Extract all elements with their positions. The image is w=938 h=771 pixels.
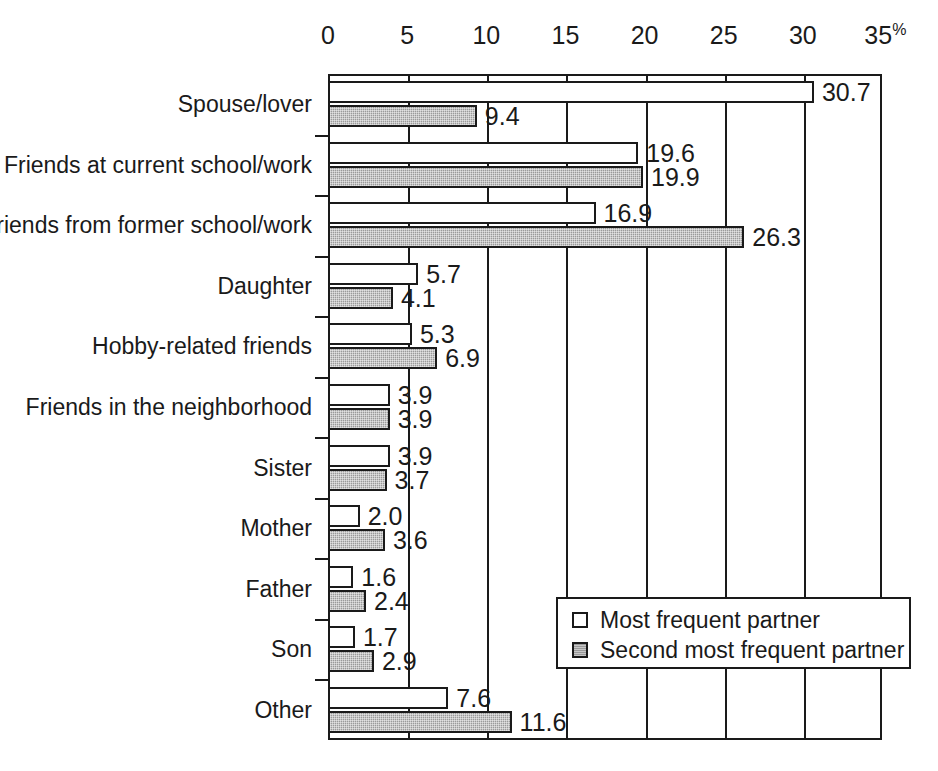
chart-legend: Most frequent partner Second most freque… [556, 597, 911, 669]
bar-value-label-1-0: 9.4 [485, 103, 520, 129]
category-label-mother: Mother [240, 515, 312, 541]
x-tick-label-35: 35% [864, 20, 906, 50]
x-tick-label-0: 0 [321, 20, 335, 50]
bar-0-2 [328, 202, 596, 224]
bar-value-label-1-5: 3.9 [398, 406, 433, 432]
x-tick-label-10: 10 [472, 20, 500, 50]
bar-0-0 [328, 81, 814, 103]
gray-square-swatch [572, 642, 588, 658]
x-tick-label-5: 5 [400, 20, 414, 50]
bar-value-label-1-9: 2.9 [382, 648, 417, 674]
bar-value-label-1-7: 3.6 [393, 527, 428, 553]
bar-value-label-1-2: 26.3 [752, 224, 801, 250]
bar-1-1 [328, 166, 643, 188]
bar-value-label-0-0: 30.7 [822, 79, 871, 105]
bar-1-6 [328, 469, 387, 491]
category-axis-tick [315, 377, 328, 379]
category-label-hobby-related-friends: Hobby-related friends [92, 333, 312, 359]
bar-value-label-1-6: 3.7 [395, 467, 430, 493]
bar-1-10 [328, 711, 512, 733]
legend-label-second-most-frequent: Second most frequent partner [600, 637, 904, 663]
category-label-other: Other [254, 697, 312, 723]
category-label-sister: Sister [253, 455, 312, 481]
bar-0-4 [328, 323, 412, 345]
category-axis-tick [315, 498, 328, 500]
category-label-daughter: Daughter [217, 273, 312, 299]
category-label-father: Father [246, 576, 312, 602]
category-label-spouse-lover: Spouse/lover [178, 91, 312, 117]
bar-1-7 [328, 529, 385, 551]
x-tick-label-25: 25 [710, 20, 738, 50]
x-tick-label-30: 30 [789, 20, 817, 50]
bar-value-label-0-2: 16.9 [604, 200, 653, 226]
category-axis-tick [315, 135, 328, 137]
white-square-swatch [572, 612, 588, 628]
legend-label-most-frequent: Most frequent partner [600, 607, 820, 633]
bar-1-9 [328, 650, 374, 672]
category-axis-tick [315, 437, 328, 439]
bar-value-label-1-1: 19.9 [651, 164, 700, 190]
category-label-son: Son [271, 636, 312, 662]
category-label-friends-from-former-school-work: Friends from former school/work [0, 212, 312, 238]
category-axis-tick [315, 619, 328, 621]
category-axis-tick [315, 679, 328, 681]
horizontal-bar-chart: 05101520253035% Spouse/loverFriends at c… [0, 0, 938, 771]
x-tick-label-15: 15 [552, 20, 580, 50]
bar-value-label-0-10: 7.6 [456, 685, 491, 711]
bar-0-3 [328, 263, 418, 285]
legend-entry-second-most-frequent: Second most frequent partner [572, 635, 909, 665]
bar-0-6 [328, 445, 390, 467]
bar-0-5 [328, 384, 390, 406]
category-axis-tick [315, 195, 328, 197]
bar-1-3 [328, 287, 393, 309]
bar-1-4 [328, 347, 437, 369]
category-axis-tick [315, 256, 328, 258]
x-axis-tick-labels: 05101520253035% [0, 20, 938, 54]
category-axis-tick [315, 558, 328, 560]
bar-value-label-1-10: 11.6 [520, 709, 567, 735]
bar-value-label-1-4: 6.9 [445, 345, 480, 371]
bar-value-label-1-3: 4.1 [401, 285, 436, 311]
category-label-friends-in-the-neighborhood: Friends in the neighborhood [26, 394, 312, 420]
bar-0-7 [328, 505, 360, 527]
bar-0-10 [328, 687, 448, 709]
bar-0-9 [328, 626, 355, 648]
bar-1-2 [328, 226, 744, 248]
bar-1-8 [328, 590, 366, 612]
category-label-friends-at-current-school-work: Friends at current school/work [4, 152, 312, 178]
bar-1-5 [328, 408, 390, 430]
bar-0-8 [328, 566, 353, 588]
legend-entry-most-frequent: Most frequent partner [572, 605, 909, 635]
x-tick-label-20: 20 [631, 20, 659, 50]
percent-unit-label: % [892, 21, 906, 38]
bar-value-label-1-8: 2.4 [374, 588, 409, 614]
bar-0-1 [328, 142, 638, 164]
category-axis-labels: Spouse/loverFriends at current school/wo… [0, 74, 320, 740]
category-axis-tick [315, 316, 328, 318]
bar-1-0 [328, 105, 477, 127]
